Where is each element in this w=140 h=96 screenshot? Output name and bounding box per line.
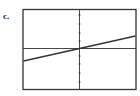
graph-window bbox=[0, 0, 140, 96]
